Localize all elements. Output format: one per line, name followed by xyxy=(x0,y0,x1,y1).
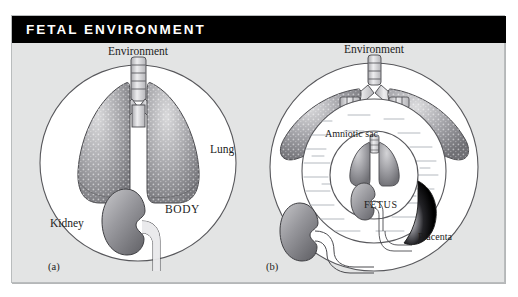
figure-title: FETAL ENVIRONMENT xyxy=(26,22,206,37)
figure-frame: FETAL ENVIRONMENT xyxy=(11,15,505,283)
trachea xyxy=(131,57,146,101)
label-amniotic-sac: Amniotic sac xyxy=(325,128,379,139)
panel-b-diagram: Environment Amniotic sac FETUS Placenta … xyxy=(252,43,496,283)
caption-panel-a: (a) xyxy=(48,261,60,273)
caption-panel-b: (b) xyxy=(266,261,279,273)
label-placenta: Placenta xyxy=(418,231,452,242)
panel-a-diagram: Environment Lung BODY Kidney (a) xyxy=(22,43,254,283)
label-body: BODY xyxy=(165,203,200,215)
label-environment-b: Environment xyxy=(344,43,405,55)
label-kidney: Kidney xyxy=(50,217,84,230)
figure-title-bar: FETAL ENVIRONMENT xyxy=(12,16,506,43)
label-lung: Lung xyxy=(210,143,235,156)
label-environment-a: Environment xyxy=(108,45,169,57)
label-fetus: FETUS xyxy=(364,199,398,210)
figure-canvas: Environment Lung BODY Kidney (a) xyxy=(12,43,506,283)
